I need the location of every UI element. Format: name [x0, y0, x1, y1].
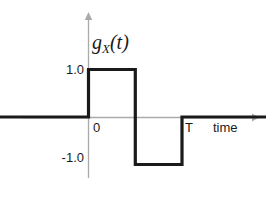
- y-tick-label-positive-one: 1.0: [42, 62, 84, 77]
- x-axis-label: time: [213, 120, 238, 135]
- amplitude-axis-arrowhead: [85, 12, 92, 20]
- waveform-plot: [0, 0, 266, 198]
- waveform-figure: 1.0 -1.0 0 T time gX(t): [0, 0, 266, 198]
- series-label-base: g: [92, 31, 102, 53]
- y-tick-label-negative-one: -1.0: [36, 150, 84, 165]
- series-label-subscript: X: [102, 41, 110, 56]
- series-label: gX(t): [92, 30, 129, 61]
- series-label-argument: (t): [110, 31, 129, 53]
- x-tick-label-period: T: [185, 120, 193, 135]
- x-tick-label-origin: 0: [93, 120, 100, 135]
